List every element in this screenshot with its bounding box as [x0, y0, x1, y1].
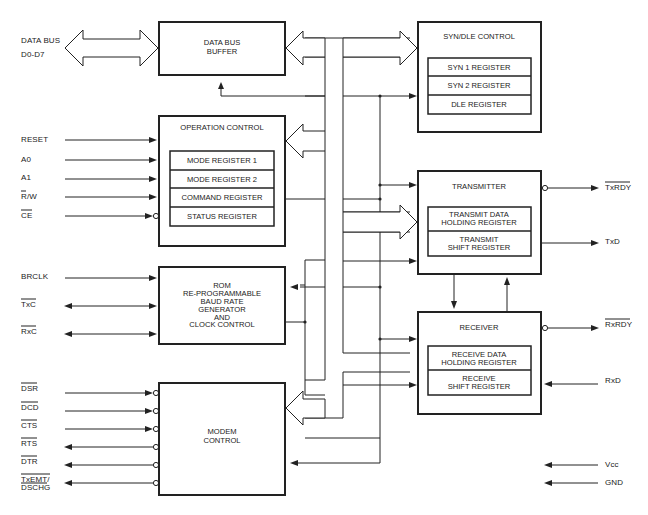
status-register: STATUS REGISTER: [187, 212, 257, 221]
pin-label-dsr: DSR: [21, 384, 38, 393]
pin-label-txc: TxC: [21, 300, 36, 309]
pin-label-rxd: RxD: [605, 376, 621, 385]
modem-control-label-1: MODEM: [207, 427, 236, 436]
operation-control-title: OPERATION CONTROL: [180, 123, 263, 132]
pin-label-d0-d7: D0-D7: [21, 50, 45, 59]
left-pin-lines: [64, 137, 159, 486]
data-bus-buffer-block: DATA BUS BUFFER: [159, 22, 285, 75]
transmitter-title: TRANSMITTER: [452, 182, 507, 191]
pin-label-rxc: RxC: [21, 327, 37, 336]
pin-label-cts: CTS: [21, 421, 37, 430]
modem-control-label-2: CONTROL: [203, 436, 240, 445]
tx-shift-register-2: SHIFT REGISTER: [448, 243, 511, 252]
pin-label-data-bus: DATA BUS: [21, 36, 60, 45]
pin-label-dtr: DTR: [21, 457, 38, 466]
right-pin-labels: TxRDY TxD RxRDY RxD Vcc GND: [605, 182, 633, 487]
left-pin-labels: DATA BUS D0-D7 RESET A0 A1 R/W CE BRCLK …: [21, 36, 60, 492]
modem-bus-arrow: [286, 391, 325, 425]
syn1-register: SYN 1 REGISTER: [448, 63, 511, 72]
command-register: COMMAND REGISTER: [181, 193, 263, 202]
modem-control-block: MODEM CONTROL: [159, 383, 285, 495]
pin-label-txrdy: TxRDY: [605, 183, 632, 192]
mode-register-1: MODE REGISTER 1: [187, 156, 257, 165]
opcontrol-bus-arrow: [286, 124, 325, 158]
operation-control-block: OPERATION CONTROL MODE REGISTER 1 MODE R…: [159, 116, 285, 246]
pin-label-rts: RTS: [21, 439, 37, 448]
usart-block-diagram: DATA BUS BUFFER OPERATION CONTROL MODE R…: [0, 0, 648, 515]
transmitter-block: TRANSMITTER TRANSMIT DATA HOLDING REGIST…: [418, 171, 541, 274]
pin-label-rxrdy: RxRDY: [605, 320, 633, 329]
pin-label-dcd: DCD: [21, 403, 39, 412]
buffer-internal-bus-arrow: [286, 31, 325, 65]
syn2-register: SYN 2 REGISTER: [448, 81, 511, 90]
data-bus-external-arrow: [65, 30, 158, 66]
pin-label-ce: CE: [21, 211, 32, 220]
pin-label-rw: R/W: [21, 192, 37, 201]
pin-label-a0: A0: [21, 155, 31, 164]
data-bus-buffer-label-2: BUFFER: [207, 47, 238, 56]
dle-register: DLE REGISTER: [451, 100, 507, 109]
pin-label-a1: A1: [21, 173, 31, 182]
syndle-bus-arrow: [343, 31, 417, 65]
baud-rate-generator-block: ROM RE-PROGRAMMABLE BAUD RATE GENERATOR …: [159, 267, 285, 344]
pin-label-gnd: GND: [605, 478, 623, 487]
rx-shift-register-2: SHIFT REGISTER: [448, 382, 511, 391]
rx-holding-register-2: HOLDING REGISTER: [441, 358, 517, 367]
pin-label-dschg: DSCHG: [21, 483, 50, 492]
receiver-block: RECEIVER RECEIVE DATA HOLDING REGISTER R…: [418, 312, 541, 414]
pin-label-vcc: Vcc: [605, 460, 619, 469]
pin-label-txd: TxD: [605, 237, 620, 246]
pin-label-brclk: BRCLK: [21, 272, 49, 281]
receiver-title: RECEIVER: [460, 323, 499, 332]
data-bus-buffer-label-1: DATA BUS: [204, 38, 240, 47]
tx-holding-register-2: HOLDING REGISTER: [441, 218, 517, 227]
right-pin-lines: [542, 185, 599, 486]
syn-dle-title: SYN/DLE CONTROL: [443, 32, 515, 41]
pin-label-reset: RESET: [21, 135, 48, 144]
brg-line-6: CLOCK CONTROL: [189, 320, 254, 329]
syn-dle-control-block: SYN/DLE CONTROL SYN 1 REGISTER SYN 2 REG…: [418, 22, 541, 132]
mode-register-2: MODE REGISTER 2: [187, 175, 257, 184]
